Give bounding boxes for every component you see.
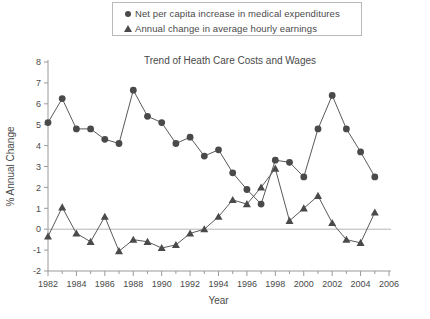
x-axis-tick-label: 1996: [237, 279, 257, 289]
data-point-medical-expenditures: [229, 169, 236, 176]
y-axis-tick-label: 0: [36, 224, 41, 234]
data-point-hourly-earnings: [129, 236, 137, 243]
data-point-medical-expenditures: [101, 136, 108, 143]
chart-canvas: 876543210-1-2198219841986198819901992199…: [0, 0, 430, 319]
data-point-medical-expenditures: [300, 174, 307, 181]
y-axis-title: % Annual Change: [5, 126, 16, 207]
data-point-hourly-earnings: [172, 241, 180, 248]
y-axis-tick-label: -1: [33, 245, 41, 255]
data-point-hourly-earnings: [44, 233, 52, 240]
data-point-medical-expenditures: [187, 134, 194, 141]
x-axis-tick-label: 1994: [208, 279, 228, 289]
data-point-medical-expenditures: [343, 125, 350, 132]
x-axis-tick-label: 2006: [379, 279, 399, 289]
x-axis-tick-label: 2002: [322, 279, 342, 289]
data-point-medical-expenditures: [286, 159, 293, 166]
data-point-hourly-earnings: [87, 238, 95, 245]
data-point-medical-expenditures: [144, 113, 151, 120]
data-point-medical-expenditures: [59, 95, 66, 102]
x-axis-tick-label: 2000: [294, 279, 314, 289]
plot-area: 876543210-1-2198219841986198819901992199…: [0, 0, 430, 319]
x-axis-tick-label: 1988: [123, 279, 143, 289]
data-point-medical-expenditures: [272, 157, 279, 164]
x-axis-tick-label: 1986: [95, 279, 115, 289]
data-point-medical-expenditures: [130, 87, 137, 94]
data-point-medical-expenditures: [201, 153, 208, 160]
y-axis-tick-label: 8: [36, 57, 41, 67]
data-point-medical-expenditures: [87, 125, 94, 132]
data-point-medical-expenditures: [215, 146, 222, 153]
y-axis-tick-label: 3: [36, 162, 41, 172]
y-axis-tick-label: 7: [36, 78, 41, 88]
data-point-medical-expenditures: [73, 125, 80, 132]
x-axis-tick-label: 2004: [351, 279, 371, 289]
data-point-hourly-earnings: [72, 229, 80, 236]
data-point-medical-expenditures: [116, 140, 123, 147]
x-axis-tick-label: 1990: [152, 279, 172, 289]
x-axis-title: Year: [208, 295, 229, 306]
data-point-hourly-earnings: [314, 192, 322, 199]
x-axis-tick-label: 1992: [180, 279, 200, 289]
y-axis-tick-label: 4: [36, 141, 41, 151]
data-point-hourly-earnings: [229, 196, 237, 203]
series-line-hourly-earnings: [48, 169, 375, 252]
y-axis-tick-label: 5: [36, 120, 41, 130]
data-point-medical-expenditures: [371, 174, 378, 181]
data-point-medical-expenditures: [158, 119, 165, 126]
data-point-medical-expenditures: [45, 119, 52, 126]
data-point-hourly-earnings: [328, 219, 336, 226]
x-axis-tick-label: 1982: [38, 279, 58, 289]
data-point-hourly-earnings: [371, 209, 379, 216]
y-axis-tick-label: 2: [36, 183, 41, 193]
data-point-hourly-earnings: [115, 247, 123, 254]
y-axis-tick-label: 6: [36, 99, 41, 109]
data-point-medical-expenditures: [315, 125, 322, 132]
data-point-hourly-earnings: [58, 203, 66, 210]
chart-screenshot: Net per capita increase in medical expen…: [0, 0, 430, 319]
y-axis-tick-label: 1: [36, 204, 41, 214]
data-point-medical-expenditures: [173, 140, 180, 147]
x-axis-tick-label: 1998: [265, 279, 285, 289]
y-axis-tick-label: -2: [33, 266, 41, 276]
data-point-hourly-earnings: [101, 213, 109, 220]
series-line-medical-expenditures: [48, 90, 375, 204]
data-point-medical-expenditures: [357, 149, 364, 156]
x-axis-tick-label: 1984: [66, 279, 86, 289]
data-point-medical-expenditures: [244, 186, 251, 193]
data-point-medical-expenditures: [258, 201, 265, 208]
data-point-medical-expenditures: [329, 92, 336, 99]
